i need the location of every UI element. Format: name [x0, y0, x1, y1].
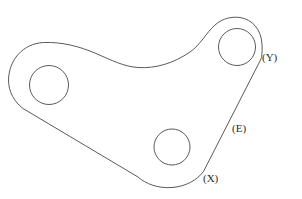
bolt-hole-bottom — [154, 129, 190, 165]
callout-label-e: (E) — [232, 123, 246, 134]
part-drawing-svg — [0, 0, 302, 199]
bolt-hole-top-right — [219, 29, 256, 66]
technical-drawing-canvas: (Y) (E) (X) — [0, 0, 302, 199]
part-outline-path — [9, 17, 263, 187]
bolt-hole-left — [30, 66, 69, 105]
callout-label-x: (X) — [203, 173, 218, 184]
callout-label-y: (Y) — [262, 52, 277, 63]
